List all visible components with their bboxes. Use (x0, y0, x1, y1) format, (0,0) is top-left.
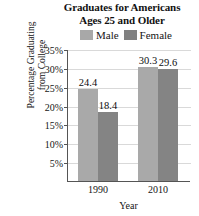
chart-figure: Graduates for Americans Ages 25 and Olde… (0, 0, 199, 216)
bar-value-1990-female: 18.4 (99, 100, 117, 111)
legend-entry-male: Male (80, 30, 119, 41)
y-tick-label-35: 35% (45, 45, 63, 56)
bar-1990-male: 24.4 (78, 89, 98, 181)
tick-5 (64, 163, 68, 164)
y-tick-label-20: 20% (45, 101, 63, 112)
chart-title-line-1: Graduates for Americans (64, 1, 181, 13)
tick-35 (64, 50, 68, 51)
chart-legend: Male Female (58, 28, 194, 42)
tick-20 (64, 107, 68, 108)
tick-25 (64, 88, 68, 89)
chart-title: Graduates for Americans Ages 25 and Olde… (46, 1, 198, 26)
y-tick-label-5: 5% (50, 158, 63, 169)
bar-value-1990-male: 24.4 (79, 77, 97, 88)
x-axis-title: Year (67, 200, 190, 211)
bar-value-2010-female: 29.6 (159, 57, 177, 68)
bar-2010-male: 30.3 (138, 67, 158, 181)
chart-title-line-2: Ages 25 and Older (46, 14, 198, 27)
y-tick-label-15: 15% (45, 120, 63, 131)
bar-1990-female: 18.4 (98, 112, 118, 181)
y-axis-title-line-1: Percentage Graduating (26, 22, 36, 109)
legend-swatch-female-icon (124, 30, 137, 40)
gridline-35 (68, 50, 191, 51)
y-tick-label-10: 10% (45, 139, 63, 150)
tick-15 (64, 125, 68, 126)
x-tick-label-2010: 2010 (148, 184, 168, 195)
legend-entry-female: Female (124, 30, 172, 41)
legend-swatch-male-icon (80, 30, 93, 40)
bar-value-2010-male: 30.3 (139, 55, 157, 66)
plot-area: 35% 30% 25% 20% 15% 10% 5% 24.4 18.4 199… (67, 50, 190, 182)
y-tick-label-25: 25% (45, 82, 63, 93)
legend-label-male: Male (96, 30, 119, 41)
x-tick-label-1990: 1990 (88, 184, 108, 195)
tick-30 (64, 69, 68, 70)
tick-10 (64, 144, 68, 145)
bar-2010-female: 29.6 (158, 69, 178, 181)
y-tick-label-30: 30% (45, 63, 63, 74)
legend-label-female: Female (140, 30, 172, 41)
